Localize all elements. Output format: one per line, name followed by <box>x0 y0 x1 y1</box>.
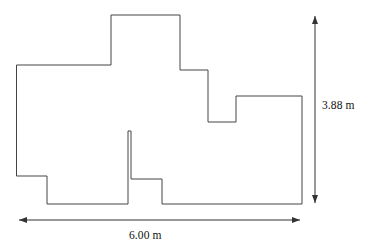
floor-plan-svg <box>0 0 367 249</box>
building-outline-polygon <box>17 15 302 204</box>
width-dimension-label: 6.00 m <box>129 229 162 241</box>
height-dimension-label: 3.88 m <box>322 99 355 111</box>
figure-canvas: 6.00 m 3.88 m <box>0 0 367 249</box>
